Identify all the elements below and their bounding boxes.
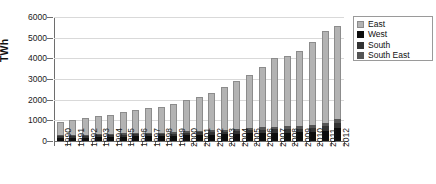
x-axis-tick-label: 2007 — [279, 128, 288, 147]
x-axis-tick-label: 1997 — [153, 128, 162, 147]
y-axis-tick-label: 4000 — [5, 54, 47, 62]
y-axis-tick — [47, 38, 53, 39]
legend-swatch-icon — [357, 42, 364, 49]
x-axis-tick — [54, 142, 55, 146]
bar-segment-east — [233, 81, 240, 129]
bar-segment-east — [196, 97, 203, 131]
y-axis-tick-label: 1000 — [5, 116, 47, 124]
x-axis-tick-label: 1998 — [165, 128, 174, 147]
x-axis-tick-label: 1995 — [127, 128, 136, 147]
bar-stack — [322, 31, 329, 141]
x-axis-tick-label: 2005 — [253, 128, 262, 147]
x-axis-tick-label: 2009 — [304, 128, 313, 147]
x-axis-tick-label: 2008 — [291, 128, 300, 147]
bar-segment-east — [208, 93, 215, 131]
legend-item: South East — [357, 51, 429, 61]
x-axis-tick-label: 2003 — [228, 128, 237, 147]
legend-item: South — [357, 40, 429, 50]
bar-segment-east — [296, 51, 303, 126]
y-axis-labels: 0100020003000400050006000 — [0, 0, 47, 184]
x-axis-tick-label: 2000 — [190, 128, 199, 147]
legend-item: East — [357, 19, 429, 29]
y-axis-tick — [47, 120, 53, 121]
bar-segment-east — [259, 67, 266, 127]
y-axis-tick-label: 0 — [5, 137, 47, 145]
bar-series-container — [54, 17, 344, 141]
legend-label: South East — [368, 51, 410, 60]
x-axis-tick-label: 2002 — [216, 128, 225, 147]
x-axis-tick-label: 1999 — [178, 128, 187, 147]
x-axis-labels: 1990199119921993199419951996199719981999… — [54, 147, 344, 184]
x-axis-tick-label: 2001 — [203, 128, 212, 147]
y-axis-tick — [47, 17, 53, 18]
bar-segment-east — [246, 75, 253, 128]
y-axis-tick — [47, 141, 53, 142]
legend-label: West — [368, 30, 387, 39]
legend-item: West — [357, 30, 429, 40]
x-axis-tick-label: 2004 — [241, 128, 250, 147]
bar-segment-east — [322, 31, 329, 123]
y-axis-tick-label: 5000 — [5, 34, 47, 42]
legend-label: East — [368, 20, 385, 29]
x-axis-tick-label: 1994 — [115, 128, 124, 147]
legend-label: South — [368, 41, 390, 50]
y-axis-tick-label: 6000 — [5, 13, 47, 21]
x-axis-tick-label: 1990 — [64, 128, 73, 147]
legend-swatch-icon — [357, 52, 364, 59]
plot-area — [54, 17, 344, 141]
x-axis-tick-label: 1993 — [102, 128, 111, 147]
bar-segment-east — [271, 58, 278, 127]
y-axis-tick — [47, 100, 53, 101]
legend: EastWestSouthSouth East — [353, 16, 433, 61]
x-axis-tick-label: 2011 — [329, 129, 338, 147]
bar-segment-east — [284, 56, 291, 126]
bar-stack — [309, 42, 316, 141]
bar-segment-east — [221, 87, 228, 130]
x-axis-tick-label: 1991 — [77, 128, 86, 147]
x-axis-tick-label: 1996 — [140, 128, 149, 147]
y-axis-tick-label: 2000 — [5, 96, 47, 104]
bar-chart: TWh 0100020003000400050006000 1990199119… — [0, 0, 436, 184]
bar-stack — [334, 26, 341, 141]
bar-segment-east — [334, 26, 341, 119]
y-axis-tick — [47, 58, 53, 59]
y-axis-tick — [47, 79, 53, 80]
legend-swatch-icon — [357, 31, 364, 38]
x-axis-tick-label: 1992 — [90, 128, 99, 147]
bar-segment-east — [183, 100, 190, 132]
legend-swatch-icon — [357, 21, 364, 28]
bar-segment-east — [309, 42, 316, 125]
x-axis-tick-label: 2006 — [266, 128, 275, 147]
x-axis-tick-label: 2010 — [316, 128, 325, 147]
y-axis-tick-label: 3000 — [5, 75, 47, 83]
x-axis-tick-label: 2012 — [342, 128, 351, 147]
